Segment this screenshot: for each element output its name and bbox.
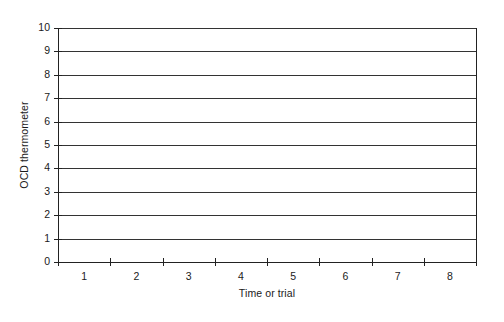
y-axis-line bbox=[58, 28, 59, 263]
gridline-y-8 bbox=[58, 75, 477, 76]
gridline-y-6 bbox=[58, 122, 477, 123]
x-tick-label-3: 3 bbox=[169, 270, 209, 282]
x-tick-label-5: 5 bbox=[273, 270, 313, 282]
chart-container: 012345678910 12345678 OCD thermometer Ti… bbox=[0, 0, 504, 322]
x-tick-label-1: 1 bbox=[64, 270, 104, 282]
x-tick-label-6: 6 bbox=[325, 270, 365, 282]
right-axis-line bbox=[476, 28, 477, 263]
gridline-y-1 bbox=[58, 239, 477, 240]
x-tick-label-7: 7 bbox=[378, 270, 418, 282]
gridline-y-10 bbox=[58, 28, 477, 29]
gridline-y-7 bbox=[58, 98, 477, 99]
x-axis-title: Time or trial bbox=[58, 286, 476, 300]
x-tick-label-2: 2 bbox=[116, 270, 156, 282]
y-axis-title: OCD thermometer bbox=[16, 28, 32, 262]
gridline-y-9 bbox=[58, 51, 477, 52]
x-tick-label-4: 4 bbox=[221, 270, 261, 282]
gridline-y-4 bbox=[58, 168, 477, 169]
gridline-y-3 bbox=[58, 192, 477, 193]
gridline-y-2 bbox=[58, 215, 477, 216]
x-axis-line bbox=[58, 262, 477, 263]
x-tick-label-8: 8 bbox=[430, 270, 470, 282]
gridline-y-5 bbox=[58, 145, 477, 146]
